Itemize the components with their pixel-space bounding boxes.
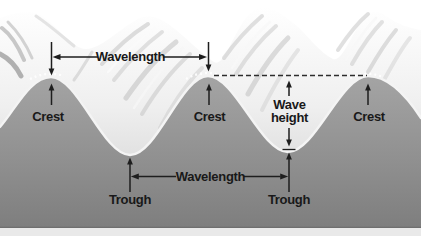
trough-right-label: Trough (268, 192, 310, 207)
wave-diagram: Wavelength Crest Crest Crest Wave height… (0, 0, 421, 236)
trough-left-label: Trough (109, 192, 151, 207)
wave-height-label: Wave height (271, 98, 308, 124)
wavelength-top-label: Wavelength (96, 48, 165, 63)
foreground-water (0, 73, 421, 228)
crest-left-label: Crest (32, 109, 64, 124)
bottom-strip (0, 227, 421, 236)
crest-right-label: Crest (353, 109, 385, 124)
wave-height-label-line2: height (271, 111, 308, 124)
wavelength-bottom-label: Wavelength (176, 169, 245, 184)
crest-center-label: Crest (194, 109, 226, 124)
